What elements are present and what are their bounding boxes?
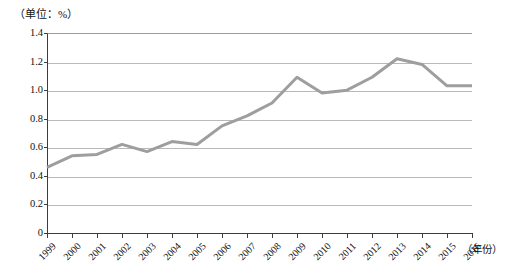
line-series-bizhong [47, 59, 472, 168]
data-series-layer [0, 0, 515, 271]
chart-figure: （单位：%） 00.20.40.60.81.01.21.4 1999200020… [0, 0, 515, 271]
x-axis-title: （年份） [462, 244, 502, 255]
